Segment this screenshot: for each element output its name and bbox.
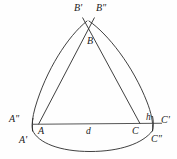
triangle-side-a-to-bpp — [39, 18, 95, 125]
arc-left-outer — [32, 21, 87, 131]
label-c-double-prime: C" — [151, 134, 162, 144]
label-b-double-prime: B" — [96, 3, 106, 13]
label-a-double-prime: A" — [9, 114, 19, 124]
geometry-figure: B' B" B A" A A' d h C C' C" — [0, 0, 177, 159]
label-b: B — [87, 36, 93, 46]
label-c: C — [132, 126, 139, 136]
arc-right-outer — [89, 21, 153, 131]
label-a-prime: A' — [19, 135, 27, 145]
baseline-chord — [33, 123, 162, 124]
tick-left-junction — [32, 118, 33, 131]
label-a: A — [38, 126, 44, 136]
label-b-prime: B' — [74, 3, 82, 13]
label-d: d — [86, 126, 91, 136]
label-c-prime: C' — [161, 115, 170, 125]
label-h: h — [146, 112, 151, 122]
